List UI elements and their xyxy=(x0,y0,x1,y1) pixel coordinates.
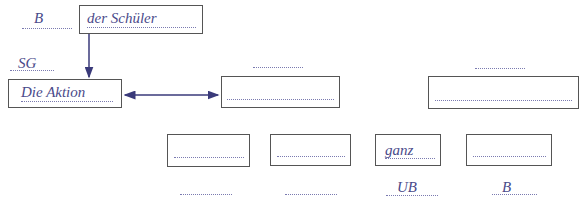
bottom-box-4-label-line xyxy=(492,194,537,195)
right-box-line[interactable] xyxy=(435,100,572,101)
main-box: Die Aktion xyxy=(8,79,122,108)
bottom-box-4 xyxy=(466,134,552,166)
bottom-box-3-line xyxy=(385,158,435,159)
middle-box-label-line[interactable] xyxy=(253,67,303,68)
main-box-label-line xyxy=(10,70,54,71)
top-box: der Schüler xyxy=(79,5,203,34)
right-box xyxy=(428,76,579,109)
bottom-box-3-label-line xyxy=(386,195,438,196)
middle-box-line[interactable] xyxy=(227,99,334,100)
top-box-label-line xyxy=(22,28,72,29)
middle-box xyxy=(221,76,340,108)
main-box-label: SG xyxy=(18,56,36,71)
bottom-box-2 xyxy=(270,134,351,166)
top-box-line xyxy=(87,27,196,28)
main-box-text: Die Aktion xyxy=(21,84,85,101)
bottom-box-3: ganz xyxy=(375,134,441,166)
bottom-box-1-line[interactable] xyxy=(174,157,244,158)
top-box-text: der Schüler xyxy=(87,10,157,27)
main-box-line xyxy=(21,101,113,102)
bottom-box-2-label-line[interactable] xyxy=(285,194,337,195)
bottom-box-3-label: UB xyxy=(397,180,417,195)
bottom-box-4-line[interactable] xyxy=(473,156,546,157)
bottom-box-1 xyxy=(167,134,250,167)
right-box-label-line[interactable] xyxy=(475,68,525,69)
bottom-box-4-label: B xyxy=(502,180,511,195)
bottom-box-2-line[interactable] xyxy=(277,156,345,157)
bottom-box-3-text: ganz xyxy=(385,142,413,159)
top-box-label: B xyxy=(34,11,43,26)
bottom-box-1-label-line[interactable] xyxy=(180,194,232,195)
